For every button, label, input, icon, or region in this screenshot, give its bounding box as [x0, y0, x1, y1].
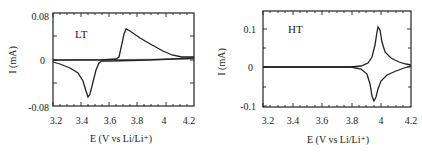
lt-x-axis-label: E (V vs Li/Li⁺)	[90, 133, 152, 145]
ht-xtick-4: 4	[379, 115, 384, 126]
ht-anodic-curve	[263, 27, 411, 67]
lt-chart: LT 0.08 0 -0.08 3.2 3.4 3.6 3.8 4 4.2 E …	[0, 0, 211, 157]
ht-panel-label: HT	[288, 23, 303, 35]
lt-ytick-bottom: -0.08	[28, 102, 49, 113]
lt-y-axis-label: I (mA)	[7, 46, 19, 74]
ht-cathodic-curve	[263, 66, 411, 101]
ht-xtick-3.4: 3.4	[287, 115, 300, 126]
ht-y-axis-label: I (mA)	[216, 48, 228, 76]
ht-ytick-bottom: -0.1	[240, 101, 256, 112]
ht-chart: HT 0.1 0 -0.1 3.2 3.4 3.6 3.8 4 4.2 E (V…	[211, 0, 422, 157]
ht-xtick-3.2: 3.2	[262, 115, 275, 126]
lt-cathodic-curve	[53, 58, 194, 97]
lt-xtick-3.6: 3.6	[104, 115, 117, 126]
lt-xtick-4: 4	[162, 115, 167, 126]
ht-plot-frame	[263, 11, 411, 107]
ht-x-axis-label: E (V vs Li/Li⁺)	[307, 134, 369, 146]
ht-ytick-mid: 0	[248, 62, 253, 73]
lt-xtick-3.4: 3.4	[76, 115, 89, 126]
lt-ytick-mid: 0	[40, 55, 45, 66]
lt-ytick-top: 0.08	[32, 11, 50, 22]
lt-xtick-3.2: 3.2	[50, 115, 63, 126]
ht-xtick-3.8: 3.8	[346, 115, 359, 126]
ht-x-ticks	[263, 11, 403, 107]
lt-xtick-3.8: 3.8	[131, 115, 144, 126]
ht-chart-panel: HT 0.1 0 -0.1 3.2 3.4 3.6 3.8 4 4.2 E (V…	[211, 0, 422, 157]
lt-xtick-4.2: 4.2	[183, 115, 196, 126]
ht-ytick-top: 0.1	[244, 24, 257, 35]
lt-chart-panel: LT 0.08 0 -0.08 3.2 3.4 3.6 3.8 4 4.2 E …	[0, 0, 211, 157]
ht-xtick-4.2: 4.2	[405, 115, 418, 126]
ht-xtick-3.6: 3.6	[316, 115, 329, 126]
lt-panel-label: LT	[75, 28, 88, 40]
